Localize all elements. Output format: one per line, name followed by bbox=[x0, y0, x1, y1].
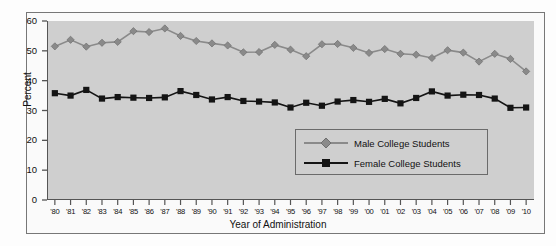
x-axis-title: Year of Administration bbox=[0, 219, 556, 230]
legend-marker-diamond-icon bbox=[304, 137, 348, 149]
legend-label-male: Male College Students bbox=[354, 138, 450, 149]
legend-item-male: Male College Students bbox=[304, 134, 450, 152]
legend-label-female: Female College Students bbox=[354, 158, 461, 169]
chart-figure: 0102030405060 '80'81'82'83'84'85'86'87'8… bbox=[0, 0, 556, 246]
x-tick-label: '10 bbox=[517, 207, 535, 216]
y-tick-label: 10 bbox=[11, 164, 37, 175]
legend-marker-square-icon bbox=[304, 157, 348, 169]
y-tick-label: 60 bbox=[11, 15, 37, 26]
y-axis-title: Percent bbox=[22, 55, 33, 125]
legend-item-female: Female College Students bbox=[304, 154, 461, 172]
y-tick-label: 0 bbox=[11, 194, 37, 205]
chart-legend: Male College Students Female College Stu… bbox=[295, 129, 488, 175]
y-tick-label: 20 bbox=[11, 134, 37, 145]
